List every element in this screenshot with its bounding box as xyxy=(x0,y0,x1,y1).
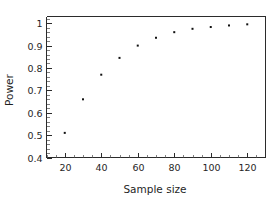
y-tick-label: 0.4 xyxy=(27,153,42,164)
data-point xyxy=(246,23,248,25)
y-axis-title: Power xyxy=(3,73,15,105)
data-point xyxy=(100,74,102,76)
power-curve-figure: 0.40.50.60.70.80.91 20406080100120 Sampl… xyxy=(0,0,280,203)
x-tick-label: 40 xyxy=(95,162,107,173)
x-tick-label: 80 xyxy=(168,162,180,173)
x-axis-title: Sample size xyxy=(123,183,186,195)
data-point xyxy=(82,98,84,100)
data-point xyxy=(119,57,121,59)
data-point xyxy=(192,28,194,30)
y-tick-label: 0.8 xyxy=(27,63,42,74)
figure-background xyxy=(0,0,280,203)
data-point xyxy=(228,24,230,26)
x-tick-label: 20 xyxy=(59,162,71,173)
y-tick-label: 0.7 xyxy=(27,85,42,96)
data-point xyxy=(137,45,139,47)
data-point xyxy=(155,37,157,39)
x-tick-label: 100 xyxy=(202,162,220,173)
data-point xyxy=(210,26,212,28)
y-tick-label: 0.6 xyxy=(27,108,42,119)
data-point xyxy=(173,31,175,33)
x-tick-label: 120 xyxy=(238,162,256,173)
y-tick-label: 0.5 xyxy=(27,130,42,141)
y-tick-label: 1 xyxy=(36,18,42,29)
scatter-plot: 0.40.50.60.70.80.91 20406080100120 Sampl… xyxy=(0,0,280,203)
y-tick-label: 0.9 xyxy=(27,41,42,52)
data-point xyxy=(64,132,66,134)
x-tick-label: 60 xyxy=(132,162,144,173)
